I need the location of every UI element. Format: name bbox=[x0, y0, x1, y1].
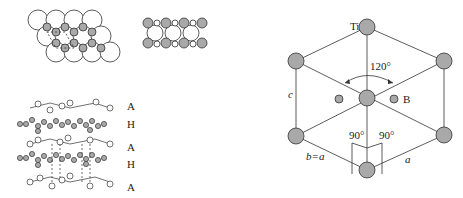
edge-b-label: b=a bbox=[306, 150, 325, 162]
arrow-head-left-icon bbox=[345, 79, 350, 84]
angle-120-label: 120° bbox=[370, 60, 391, 72]
angle-90-left-label: 90° bbox=[349, 129, 364, 141]
b-label: B bbox=[403, 93, 410, 105]
close-packed-layer-top-view bbox=[28, 10, 120, 62]
b-atom-left bbox=[335, 95, 343, 103]
arrow-head-right-icon bbox=[388, 79, 393, 84]
edge-a-label: a bbox=[405, 153, 411, 165]
edge-c-label: c bbox=[288, 88, 293, 100]
ti-atom-bottom bbox=[359, 162, 375, 178]
layer-side-view bbox=[143, 18, 207, 48]
ti-atom-center bbox=[359, 90, 375, 106]
ti-atom-lower-left bbox=[288, 128, 304, 144]
ti-atom-lower-right bbox=[436, 127, 452, 143]
ti-atom-upper-left bbox=[288, 53, 304, 69]
diagram-canvas: A H A H A Ti B 120° 90° 90° c b=a a bbox=[0, 0, 463, 198]
layer-label-a2: A bbox=[127, 141, 135, 153]
layer-label-a1: A bbox=[127, 100, 135, 112]
b-atom-right bbox=[390, 95, 398, 103]
ti-atom-upper-right bbox=[436, 53, 452, 69]
layer-label-h2: H bbox=[127, 158, 135, 170]
layer-label-a3: A bbox=[127, 181, 135, 193]
ti-atom-top bbox=[359, 19, 375, 35]
stacking-sequence bbox=[17, 99, 113, 189]
ti-label: Ti bbox=[350, 20, 359, 32]
layer-label-h1: H bbox=[127, 118, 135, 130]
angle-90-right-label: 90° bbox=[379, 129, 394, 141]
